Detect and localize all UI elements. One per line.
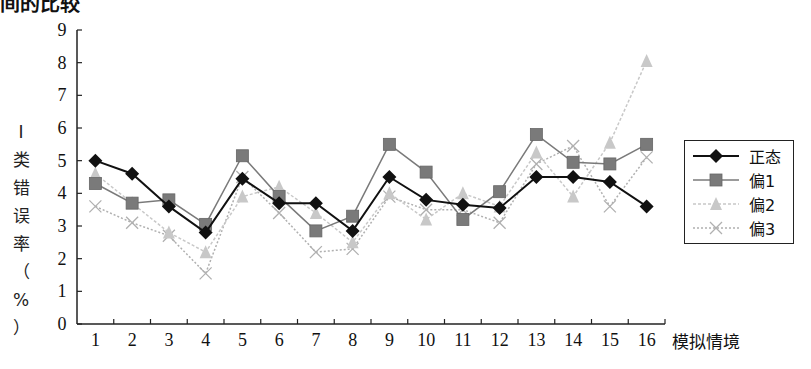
legend-item: 偏2 <box>691 193 775 215</box>
square-marker <box>604 158 616 170</box>
legend-label: 正态 <box>749 144 781 168</box>
y-tick-label: 5 <box>58 151 67 171</box>
triangle-marker <box>641 54 653 67</box>
x-marker <box>89 200 101 212</box>
x-marker <box>641 151 653 163</box>
y-tick-label: 9 <box>58 20 67 40</box>
series-偏1 <box>89 129 652 237</box>
x-tick-label: 11 <box>454 330 471 350</box>
series-line <box>95 146 646 273</box>
y-tick-label: 4 <box>58 183 67 203</box>
square-icon <box>710 174 722 186</box>
legend-swatch-icon <box>691 170 741 190</box>
square-marker <box>530 129 542 141</box>
diamond-icon <box>709 149 723 163</box>
x-tick-label: 5 <box>238 330 247 350</box>
legend: 正态偏1偏2偏3 <box>684 140 794 244</box>
square-marker <box>89 178 101 190</box>
triangle-marker <box>530 146 542 159</box>
y-tick-label: 2 <box>58 249 67 269</box>
x-marker <box>200 267 212 279</box>
x-marker <box>604 200 616 212</box>
x-marker <box>126 217 138 229</box>
x-tick-label: 15 <box>601 330 619 350</box>
y-tick-label: 6 <box>58 118 67 138</box>
y-tick-label: 8 <box>58 53 67 73</box>
diamond-marker <box>382 170 396 184</box>
y-tick-label: 3 <box>58 216 67 236</box>
series-line <box>95 135 646 231</box>
x-tick-label: 8 <box>348 330 357 350</box>
legend-item: 偏1 <box>691 169 775 191</box>
x-tick-label: 9 <box>385 330 394 350</box>
square-marker <box>420 166 432 178</box>
x-tick-label: 2 <box>128 330 137 350</box>
square-marker <box>383 138 395 150</box>
diamond-marker <box>566 170 580 184</box>
diamond-marker <box>235 172 249 186</box>
legend-label: 偏2 <box>749 192 775 216</box>
square-marker <box>457 213 469 225</box>
square-marker <box>236 150 248 162</box>
x-tick-label: 16 <box>638 330 656 350</box>
y-tick-label: 7 <box>58 85 67 105</box>
x-axis-label: 模拟情境 <box>672 328 740 353</box>
square-marker <box>347 210 359 222</box>
legend-swatch-icon <box>691 218 741 238</box>
legend-swatch-icon <box>691 194 741 214</box>
x-icon <box>710 222 722 234</box>
x-marker <box>494 217 506 229</box>
x-tick-label: 10 <box>417 330 435 350</box>
square-marker <box>494 186 506 198</box>
square-marker <box>567 156 579 168</box>
triangle-marker <box>604 136 616 149</box>
diamond-marker <box>640 199 654 213</box>
x-tick-label: 14 <box>564 330 582 350</box>
legend-swatch-icon <box>691 146 741 166</box>
legend-label: 偏3 <box>749 216 775 240</box>
diamond-marker <box>88 154 102 168</box>
x-tick-label: 4 <box>201 330 210 350</box>
legend-label: 偏1 <box>749 168 775 192</box>
x-marker <box>567 140 579 152</box>
legend-item: 正态 <box>691 145 781 167</box>
diamond-marker <box>456 198 470 212</box>
x-tick-label: 3 <box>164 330 173 350</box>
triangle-marker <box>457 186 469 199</box>
square-marker <box>310 225 322 237</box>
x-tick-label: 7 <box>311 330 320 350</box>
x-tick-label: 12 <box>491 330 509 350</box>
x-tick-label: 13 <box>527 330 545 350</box>
y-tick-label: 1 <box>58 281 67 301</box>
square-marker <box>126 197 138 209</box>
diamond-marker <box>603 175 617 189</box>
y-tick-label: 0 <box>58 314 67 334</box>
x-marker <box>530 158 542 170</box>
legend-item: 偏3 <box>691 217 775 239</box>
square-marker <box>641 138 653 150</box>
x-tick-label: 6 <box>275 330 284 350</box>
x-tick-label: 1 <box>91 330 100 350</box>
